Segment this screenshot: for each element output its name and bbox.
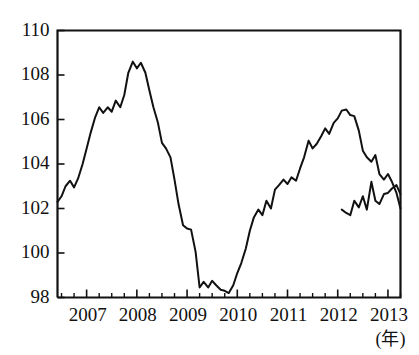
y-tick-label: 106 — [21, 108, 50, 129]
x-axis-unit: (年) — [375, 329, 405, 350]
y-tick-label: 100 — [21, 241, 50, 262]
x-tick-label: 2010 — [219, 304, 257, 325]
x-axis-labels: 2007200820092010201120122013 — [69, 304, 408, 325]
x-tick-label: 2012 — [320, 304, 358, 325]
x-tick-label: 2007 — [69, 304, 107, 325]
x-tick-label: 2008 — [119, 304, 157, 325]
plot-frame — [58, 31, 401, 298]
axes — [58, 31, 401, 298]
x-tick-label: 2009 — [169, 304, 207, 325]
chart-canvas: 98100102104106108110 2007200820092010201… — [0, 0, 419, 355]
y-tick-label: 108 — [21, 63, 50, 84]
y-axis-labels: 98100102104106108110 — [21, 19, 50, 307]
series-path-tail — [342, 182, 401, 215]
y-tick-label: 104 — [21, 152, 50, 173]
y-tick-label: 102 — [21, 197, 50, 218]
chart-annotations: (年) — [375, 329, 405, 350]
line-chart: 98100102104106108110 2007200820092010201… — [0, 0, 419, 355]
y-tick-label: 98 — [31, 286, 50, 307]
tick-marks — [58, 31, 401, 298]
data-series — [58, 62, 401, 293]
y-tick-label: 110 — [22, 19, 50, 40]
series-path — [58, 62, 401, 293]
x-tick-label: 2013 — [370, 304, 408, 325]
x-tick-label: 2011 — [270, 304, 307, 325]
